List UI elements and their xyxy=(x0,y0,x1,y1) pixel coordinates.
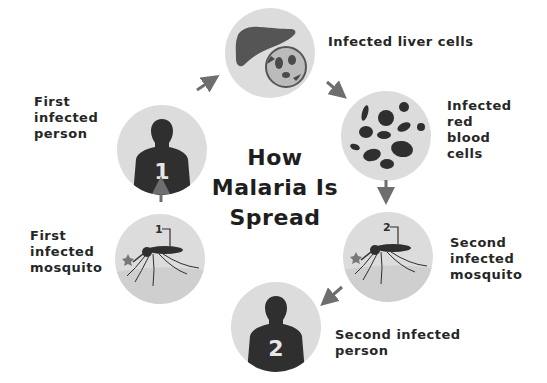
title-line-2: Malaria Is xyxy=(205,173,345,203)
diagram-title: How Malaria Is Spread xyxy=(205,143,345,233)
red-blood-cells-icon xyxy=(341,91,431,181)
second-mosquito-label: Second infected mosquito xyxy=(450,235,522,283)
second-mosquito-circle: 2 xyxy=(343,212,433,302)
svg-text:1: 1 xyxy=(154,159,169,184)
second-person-label: Second infected person xyxy=(335,327,461,359)
svg-text:2: 2 xyxy=(268,336,283,361)
first-mosquito-circle: 1 xyxy=(115,214,205,304)
liver-label: Infected liver cells xyxy=(328,34,473,50)
arrow-mosquito2-to-person2 xyxy=(327,287,342,300)
svg-text:2: 2 xyxy=(383,221,391,234)
arrow-liver-to-rbc xyxy=(327,82,340,93)
rbc-circle xyxy=(341,91,431,181)
liver-circle xyxy=(225,8,315,98)
person-silhouette-icon: 1 xyxy=(117,105,207,195)
title-line-3: Spread xyxy=(205,203,345,233)
liver-cell-icon xyxy=(225,8,315,98)
first-mosquito-label: First infected mosquito xyxy=(30,228,102,276)
first-person-label: First infected person xyxy=(34,94,98,142)
first-person-circle: 1 xyxy=(117,105,207,195)
malaria-cycle-diagram: How Malaria Is Spread 1 First infected p… xyxy=(0,0,547,383)
person-silhouette-icon: 2 xyxy=(231,282,321,372)
mosquito-icon: 2 xyxy=(343,212,433,302)
title-line-1: How xyxy=(205,143,345,173)
mosquito-icon: 1 xyxy=(115,214,205,304)
arrow-person1-to-liver xyxy=(197,80,212,90)
rbc-label: Infected red blood cells xyxy=(447,98,512,162)
svg-text:1: 1 xyxy=(155,223,163,236)
second-person-circle: 2 xyxy=(231,282,321,372)
